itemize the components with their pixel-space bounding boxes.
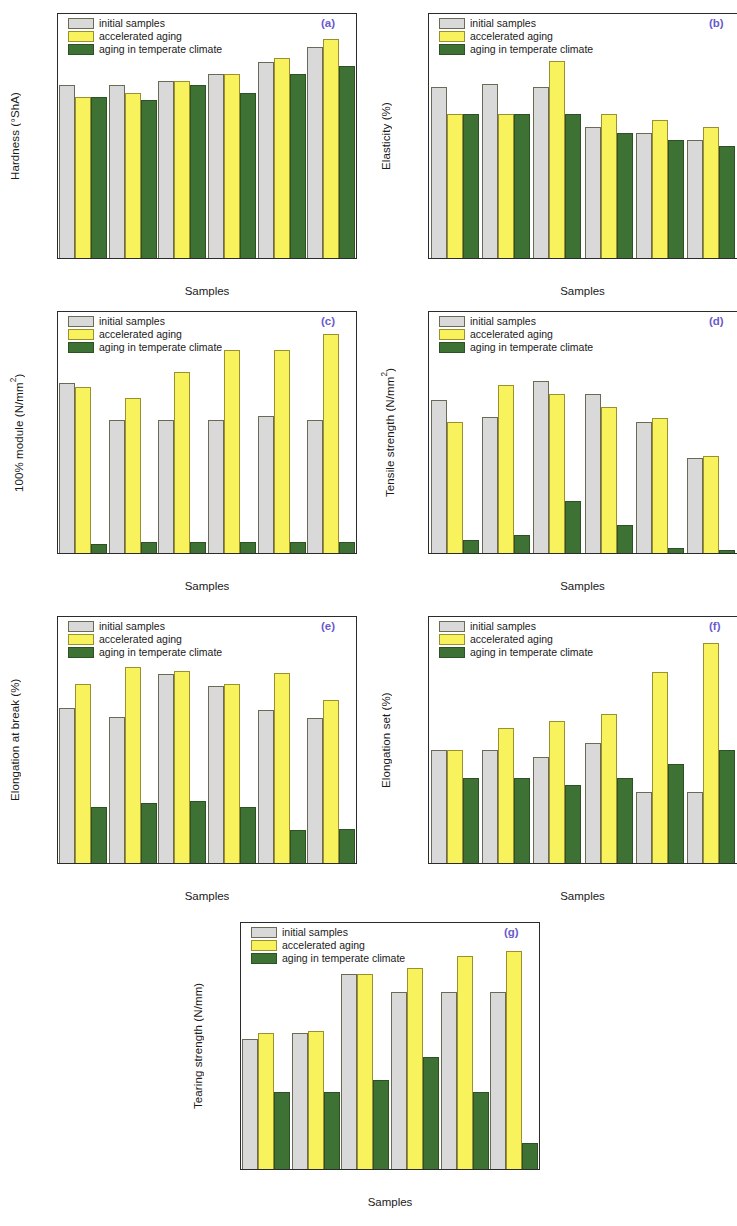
bar-group-g-NR-50	[489, 923, 539, 1169]
bar-g-NR-s0	[242, 1039, 258, 1169]
bar-g-NR-10-s2	[324, 1092, 340, 1169]
x-tickmark-g-0	[266, 1169, 267, 1170]
legend-item-g-1: accelerated aging	[251, 939, 405, 951]
bar-g-NR-20-s0	[341, 974, 357, 1169]
x-tickmark-g-4	[466, 1169, 467, 1170]
x-minor-tickmark-g-1	[291, 1169, 292, 1170]
bar-g-NR-s2	[274, 1092, 290, 1169]
bar-g-NR-50-s1	[506, 951, 522, 1169]
x-minor-tickmark-g-4	[441, 1169, 442, 1170]
legend-swatch-g-2	[251, 953, 277, 964]
bar-g-NR-10-s1	[308, 1031, 324, 1169]
bar-g-NR-40-s0	[441, 992, 457, 1169]
bar-g-NR-40-s1	[457, 956, 473, 1169]
bar-g-NR-30-s2	[423, 1057, 439, 1169]
y-axis-label-text-g: Tearing strength (N/mm)	[192, 983, 204, 1109]
x-tickmark-g-1	[316, 1169, 317, 1170]
bar-g-NR-50-s2	[522, 1143, 538, 1169]
x-tickmark-g-2	[366, 1169, 367, 1170]
legend-swatch-g-1	[251, 940, 277, 951]
panel-g: 05101520NRNR-10NR-20NR-30NR-40NR-50initi…	[0, 0, 737, 1226]
legend-item-g-0: initial samples	[251, 926, 405, 938]
bar-g-NR-30-s1	[407, 968, 423, 1169]
x-minor-tickmark-g-2	[341, 1169, 342, 1170]
x-tickmark-g-3	[416, 1169, 417, 1170]
legend-label-g-2: aging in temperate climate	[282, 953, 405, 964]
legend-g: initial samplesaccelerated agingaging in…	[251, 926, 405, 964]
panel-tag-g: (g)	[504, 926, 519, 938]
x-minor-tickmark-g-3	[391, 1169, 392, 1170]
legend-label-g-0: initial samples	[282, 927, 348, 938]
x-axis-label-g: Samples	[240, 1196, 540, 1208]
x-minor-tickmark-g-5	[491, 1169, 492, 1170]
bar-g-NR-40-s2	[473, 1092, 489, 1169]
bar-g-NR-30-s0	[391, 992, 407, 1169]
legend-swatch-g-0	[251, 927, 277, 938]
y-axis-label-g: Tearing strength (N/mm)	[192, 922, 204, 1170]
x-tickmark-g-5	[516, 1169, 517, 1170]
legend-label-g-1: accelerated aging	[282, 940, 365, 951]
bar-g-NR-50-s0	[490, 992, 506, 1169]
bar-g-NR-20-s2	[373, 1080, 389, 1169]
bar-g-NR-20-s1	[357, 974, 373, 1169]
bar-g-NR-s1	[258, 1033, 274, 1169]
bar-g-NR-10-s0	[292, 1033, 308, 1169]
bar-group-g-NR-40	[440, 923, 490, 1169]
legend-item-g-2: aging in temperate climate	[251, 952, 405, 964]
figure-panel-grid: 0102030405060NRNR-10NR-20NR-30NR-40NR-50…	[0, 0, 737, 1226]
